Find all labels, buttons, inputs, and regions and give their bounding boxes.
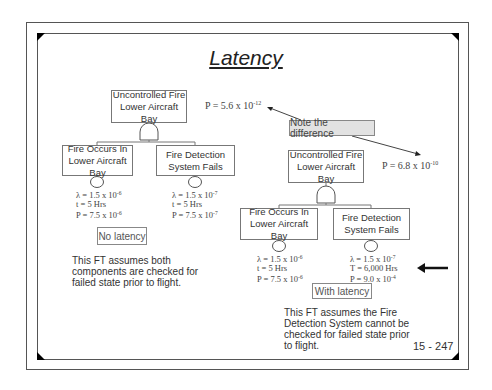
top-event-line1: Uncontrolled Fire	[112, 89, 186, 101]
basic-event-circle-icon	[365, 241, 378, 252]
no-latency-label: No latency	[97, 227, 147, 245]
note-the-difference-box: Note the difference	[289, 120, 375, 136]
page-number: 15 - 247	[413, 340, 453, 352]
right-child-fire-occurs-box: Fire Occurs In Lower Aircraft Bay	[240, 208, 318, 240]
left-child-fire-occurs-box: Fire Occurs In Lower Aircraft Bay	[62, 145, 133, 176]
and-gate-icon	[317, 186, 335, 203]
description-line: components are checked for	[72, 266, 232, 277]
right-top-probability: P = 6.8 x 10-10	[382, 160, 438, 171]
basic-event-circle-icon	[189, 177, 202, 188]
description-line: checked for failed state prior	[284, 329, 444, 340]
time-value: T = 6,000 Hrs	[350, 264, 398, 273]
right-child-0-params: λ = 1.5 x 10-6 t = 5 Hrs P = 7.5 x 10-6	[257, 253, 303, 284]
left-child-detection-fails-box: Fire Detection System Fails	[156, 145, 235, 176]
event-line1: Fire Detection	[342, 212, 401, 224]
event-line1: Fire Detection	[166, 149, 225, 161]
event-line2: Lower Aircraft Bay	[241, 218, 317, 242]
time-value: t = 5 Hrs	[257, 264, 303, 273]
event-line2: Lower Aircraft Bay	[63, 155, 132, 179]
bold-arrow-icon	[417, 263, 425, 273]
time-value: t = 5 Hrs	[172, 200, 218, 209]
with-latency-label: With latency	[312, 283, 372, 299]
description-line: This FT assumes the Fire	[284, 307, 444, 318]
prob-value: P = 7.5 x 10-6	[257, 273, 303, 284]
event-line2: System Fails	[342, 224, 401, 236]
event-line1: Fire Occurs In	[63, 143, 132, 155]
top-event-line2: Lower Aircraft Bay	[112, 101, 186, 125]
left-top-probability: P = 5.6 x 10-12	[205, 100, 261, 111]
description-line: This FT assumes both	[72, 255, 232, 266]
left-child-0-params: λ = 1.5 x 10-6 t = 5 Hrs P = 7.5 x 10-6	[76, 189, 122, 220]
top-event-line1: Uncontrolled Fire	[289, 149, 363, 161]
basic-event-circle-icon	[273, 241, 286, 252]
and-gate-icon	[140, 123, 158, 140]
left-child-1-params: λ = 1.5 x 10-7 t = 5 Hrs P = 7.5 x 10-7	[172, 189, 218, 220]
right-top-event-box: Uncontrolled Fire Lower Aircraft Bay	[288, 150, 364, 183]
left-top-event-box: Uncontrolled Fire Lower Aircraft Bay	[111, 90, 187, 123]
left-description: This FT assumes both components are chec…	[72, 255, 232, 288]
description-line: failed state prior to flight.	[72, 277, 232, 288]
arrowhead-icon	[415, 151, 421, 156]
prob-value: P = 7.5 x 10-7	[172, 209, 218, 220]
time-value: t = 5 Hrs	[76, 200, 122, 209]
event-line1: Fire Occurs In	[241, 206, 317, 218]
top-event-line2: Lower Aircraft Bay	[289, 161, 363, 185]
description-line: Detection System cannot be	[284, 318, 444, 329]
event-line2: System Fails	[166, 161, 225, 173]
right-child-detection-fails-box: Fire Detection System Fails	[333, 208, 410, 240]
prob-value: P = 7.5 x 10-6	[76, 209, 122, 220]
right-child-1-params: λ = 1.5 x 10-7 T = 6,000 Hrs P = 9.0 x 1…	[350, 253, 398, 284]
